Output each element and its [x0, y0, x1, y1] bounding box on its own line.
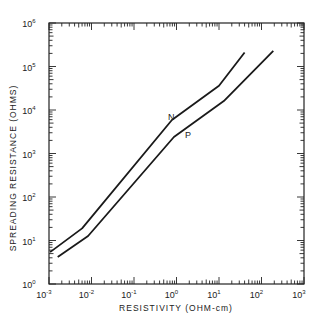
y-tick-labels: 100101102103104105106 [22, 18, 36, 290]
svg-text:103: 103 [292, 289, 306, 300]
svg-text:100: 100 [22, 279, 36, 290]
svg-text:102: 102 [250, 289, 264, 300]
svg-text:103: 103 [22, 149, 36, 160]
svg-text:10-1: 10-1 [121, 289, 137, 300]
x-tick-labels: 10-310-210-1100101102103 [36, 289, 306, 300]
plot-frame [49, 23, 304, 284]
svg-text:105: 105 [22, 62, 36, 73]
curve-label-n: N [168, 112, 175, 122]
spreading-resistance-chart: 10-310-210-1100101102103 100101102103104… [0, 0, 325, 325]
curve-p [58, 51, 274, 257]
svg-text:101: 101 [22, 236, 36, 247]
axis-ticks [49, 23, 304, 284]
x-axis-title: RESISTIVITY (OHM-cm) [119, 303, 233, 313]
curve-n [50, 53, 245, 253]
curve-label-p: P [185, 130, 191, 140]
svg-text:100: 100 [165, 289, 179, 300]
svg-text:104: 104 [22, 105, 36, 116]
y-axis-title: SPREADING RESISTANCE (OHMS) [8, 85, 18, 252]
svg-text:10-2: 10-2 [79, 289, 95, 300]
svg-text:10-3: 10-3 [36, 289, 52, 300]
svg-text:106: 106 [22, 18, 36, 29]
svg-text:101: 101 [207, 289, 221, 300]
svg-text:102: 102 [22, 192, 36, 203]
